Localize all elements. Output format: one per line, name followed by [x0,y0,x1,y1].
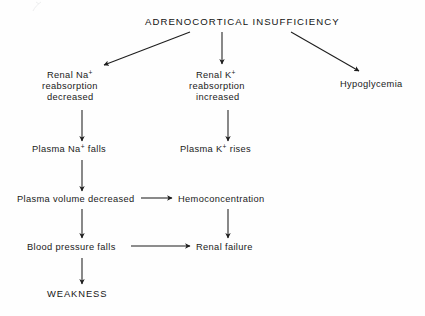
node-renal-failure: Renal failure [196,242,253,252]
flowchart-canvas: ADRENOCORTICAL INSUFFICIENCY Renal Na+ r… [0,0,425,316]
renal-na-line2: reabsorption [42,81,98,91]
edge-root-to-hypoglycemia [291,32,359,71]
diagram-page: ADRENOCORTICAL INSUFFICIENCY Renal Na+ r… [0,0,425,316]
node-renal-na-reabsorption-decreased: Renal Na+ reabsorption decreased [42,69,98,103]
node-hemoconcentration: Hemoconcentration [178,194,265,204]
renal-k-line3: increased [196,92,239,102]
node-weakness: WEAKNESS [47,288,107,299]
node-plasma-na-falls: Plasma Na+ falls [32,143,106,155]
renal-na-line3: decreased [47,92,94,102]
svg-text:Renal K+: Renal K+ [196,69,236,81]
plasma-k-pre: Plasma K [180,144,223,154]
renal-k-superscript: + [232,69,236,76]
plasma-na-pre: Plasma Na [32,144,81,154]
plasma-k-post: rises [227,144,251,154]
renal-k-line2: reabsorption [189,81,245,91]
plasma-na-post: falls [85,144,106,154]
renal-na-superscript: + [89,69,93,76]
node-plasma-volume-decreased: Plasma volume decreased [17,194,135,204]
renal-k-line1: Renal K [196,70,232,80]
node-plasma-k-rises: Plasma K+ rises [180,143,251,155]
node-adrenocortical-insufficiency: ADRENOCORTICAL INSUFFICIENCY [145,16,340,27]
renal-na-line1: Renal Na [47,70,89,80]
node-blood-pressure-falls: Blood pressure falls [27,242,116,252]
svg-text:Renal Na+: Renal Na+ [47,69,93,81]
node-renal-k-reabsorption-increased: Renal K+ reabsorption increased [189,69,245,103]
edge-root-to-renal-na [104,32,190,65]
node-hypoglycemia: Hypoglycemia [340,79,403,89]
